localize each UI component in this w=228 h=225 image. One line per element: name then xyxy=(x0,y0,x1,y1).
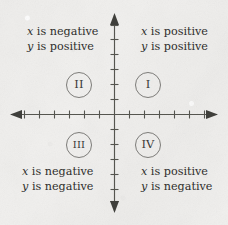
quadrant-3-numeral-badge: III xyxy=(66,132,92,158)
y-axis-arrow-up xyxy=(110,13,119,25)
quadrant-2-y-statement: y is positive xyxy=(27,40,98,55)
quadrant-3-y-text: is negative xyxy=(28,180,93,193)
quadrant-2-statements: x is negative y is positive xyxy=(27,25,98,54)
quadrant-3-x-statement: x is negative xyxy=(22,165,93,180)
quadrant-1-statements: x is positive y is positive xyxy=(141,25,208,54)
x-axis-arrow-left xyxy=(10,110,22,119)
quadrant-2-numeral: II xyxy=(74,79,84,91)
quadrant-4-x-statement: x is positive xyxy=(141,165,212,180)
quadrant-2-y-text: is positive xyxy=(33,40,94,53)
x-axis-arrow-right xyxy=(206,110,218,119)
y-axis-arrow-down xyxy=(110,201,119,213)
quadrant-4-y-statement: y is negative xyxy=(141,180,212,195)
quadrant-2-x-statement: x is negative xyxy=(27,25,98,40)
quadrant-3-statements: x is negative y is negative xyxy=(22,165,93,194)
quadrant-1-numeral-badge: I xyxy=(135,72,161,98)
quadrant-1-x-text: is positive xyxy=(147,25,208,38)
quadrant-1-y-statement: y is positive xyxy=(141,40,208,55)
quadrant-4-numeral: IV xyxy=(141,139,154,151)
quadrant-3-numeral: III xyxy=(73,140,85,150)
quadrant-2-x-text: is negative xyxy=(33,25,98,38)
quadrant-2-numeral-badge: II xyxy=(66,72,92,98)
quadrant-4-y-text: is negative xyxy=(147,180,212,193)
quadrant-3-x-text: is negative xyxy=(28,165,93,178)
quadrant-3-y-statement: y is negative xyxy=(22,180,93,195)
quadrant-1-x-statement: x is positive xyxy=(141,25,208,40)
quadrant-4-numeral-badge: IV xyxy=(135,132,161,158)
quadrant-4-statements: x is positive y is negative xyxy=(141,165,212,194)
quadrant-diagram-figure: x is negative y is positive x is positiv… xyxy=(0,0,228,225)
quadrant-1-numeral: I xyxy=(146,79,151,91)
quadrant-1-y-text: is positive xyxy=(147,40,208,53)
quadrant-4-x-text: is positive xyxy=(147,165,208,178)
